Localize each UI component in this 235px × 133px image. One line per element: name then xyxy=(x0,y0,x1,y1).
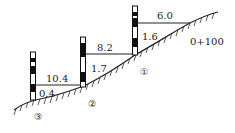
station-label: 0+100 xyxy=(190,36,224,47)
station-marker-3: ③ xyxy=(34,112,42,122)
distance-label-1: 6.0 xyxy=(157,10,173,21)
reading-label-1: 1.6 xyxy=(142,31,158,42)
reading-label-3: 0.4 xyxy=(39,88,55,99)
leveling-staff-1 xyxy=(133,6,138,55)
profile-diagram: 10.4 0.4 8.2 1.7 6.0 1.6 0+100 ① ② ③ xyxy=(0,0,235,133)
station-marker-1: ① xyxy=(140,67,148,77)
leveling-staff-3 xyxy=(31,52,36,100)
distance-label-3: 10.4 xyxy=(46,73,68,84)
leveling-staff-2 xyxy=(81,37,86,87)
distance-label-2: 8.2 xyxy=(97,42,113,53)
ground-hatching xyxy=(14,13,214,115)
station-marker-2: ② xyxy=(88,99,96,109)
reading-label-2: 1.7 xyxy=(91,63,107,74)
